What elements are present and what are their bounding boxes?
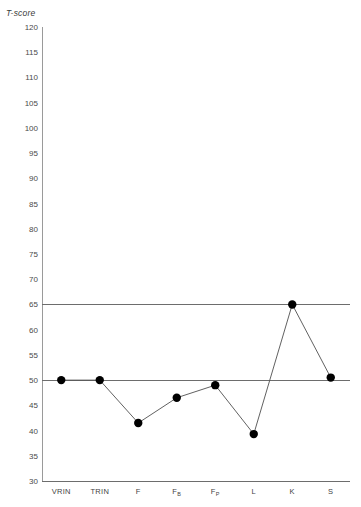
y-axis-tick-110: 110 [4,73,38,82]
t-score-profile-chart: T-score 12011511010510095908580757065605… [0,0,361,507]
x-axis-tick-vrin: VRIN [52,487,71,496]
y-axis-tick-40: 40 [4,426,38,435]
y-axis-tick-45: 45 [4,401,38,410]
x-axis-tick-l: L [252,487,256,496]
x-axis-tick-fp: FP [211,487,220,496]
x-axis-tick-s: S [328,487,333,496]
y-axis-tick-115: 115 [4,48,38,57]
x-axis-tick-trin: TRIN [90,487,109,496]
y-axis-tick-65: 65 [4,300,38,309]
y-axis-tick-90: 90 [4,174,38,183]
y-axis-tick-labels: 1201151101051009590858075706560555045403… [0,0,38,507]
y-axis-tick-60: 60 [4,325,38,334]
x-axis-tick-fb: FB [172,487,181,496]
y-axis-tick-50: 50 [4,376,38,385]
y-axis-tick-85: 85 [4,199,38,208]
y-axis-tick-55: 55 [4,350,38,359]
data-point-f [134,419,142,427]
mean-line [42,380,350,381]
y-axis-tick-95: 95 [4,149,38,158]
y-axis-line [42,27,43,482]
x-axis-tick-k: K [290,487,295,496]
x-axis-tick-f: F [136,487,141,496]
y-axis-tick-75: 75 [4,250,38,259]
data-point-fb [173,394,181,402]
data-point-fp [211,381,219,389]
x-axis-line [42,481,350,482]
y-axis-tick-120: 120 [4,23,38,32]
y-axis-tick-100: 100 [4,123,38,132]
series-line [61,304,331,434]
y-axis-tick-30: 30 [4,477,38,486]
data-point-l [250,430,258,438]
y-axis-tick-105: 105 [4,98,38,107]
clinical-elevation-line [42,304,350,305]
y-axis-tick-80: 80 [4,224,38,233]
data-series-layer [0,0,361,507]
y-axis-tick-70: 70 [4,275,38,284]
y-axis-tick-35: 35 [4,451,38,460]
